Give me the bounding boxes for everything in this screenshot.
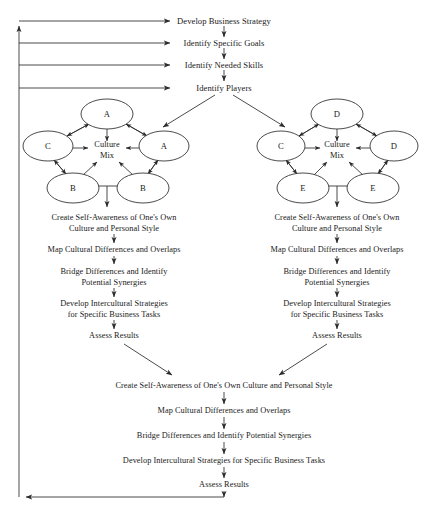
left-node-bottom-left-label: B (70, 184, 76, 193)
right-step-5: Assess Results (312, 332, 362, 340)
left-step-4-line-1: Develop Intercultural Strategies (60, 300, 168, 308)
left-step-3-line-2: Potential Synergies (81, 279, 146, 287)
left-culture-mix-label: Culture Mix (94, 140, 119, 161)
left-step-5: Assess Results (89, 332, 139, 340)
merge-connectors (124, 344, 327, 375)
players-split-connectors (163, 95, 285, 127)
merged-step-3: Bridge Differences and Identify Potentia… (137, 432, 311, 440)
right-step-4-line-2: for Specific Business Tasks (291, 311, 384, 319)
right-step-3-line-1: Bridge Differences and Identify (283, 268, 390, 276)
step-develop-business-strategy: Develop Business Strategy (177, 17, 271, 26)
left-node-right-label: A (161, 142, 167, 151)
merged-step-4: Develop Intercultural Strategies for Spe… (123, 457, 325, 465)
left-step-4-line-2: for Specific Business Tasks (68, 311, 161, 319)
left-step-1-line-2: Culture and Personal Style (69, 225, 159, 233)
merged-step-2: Map Cultural Differences and Overlaps (157, 407, 290, 415)
connector-layer (0, 0, 431, 518)
right-step-4-line-1: Develop Intercultural Strategies (283, 300, 391, 308)
right-node-bottom-left-label: E (300, 184, 305, 193)
step-identify-needed-skills: Identify Needed Skills (185, 61, 263, 70)
right-culture-mix-label: Culture Mix (324, 140, 349, 161)
right-step-1-line-1: Create Self-Awareness of One's Own (274, 214, 399, 222)
step-identify-specific-goals: Identify Specific Goals (184, 39, 265, 48)
right-node-bottom-right-label: E (370, 184, 375, 193)
right-step-1-line-2: Culture and Personal Style (292, 225, 382, 233)
left-step-1-line-1: Create Self-Awareness of One's Own (51, 214, 176, 222)
right-step-2: Map Cultural Differences and Overlaps (270, 246, 403, 254)
feedback-loop-lines (19, 21, 224, 497)
left-node-bottom-right-label: B (140, 184, 146, 193)
right-node-top-label: D (334, 110, 340, 119)
left-step-2: Map Cultural Differences and Overlaps (47, 246, 180, 254)
step-identify-players: Identify Players (196, 84, 251, 93)
cluster-node-shapes (23, 99, 418, 203)
merged-step-5: Assess Results (199, 481, 249, 489)
left-node-top-label: A (104, 110, 110, 119)
right-node-left-label: C (278, 142, 284, 151)
merged-step-1: Create Self-Awareness of One's Own Cultu… (115, 382, 332, 390)
diagram-canvas: Develop Business Strategy Identify Speci… (0, 0, 431, 518)
left-step-3-line-1: Bridge Differences and Identify (60, 268, 167, 276)
right-step-3-line-2: Potential Synergies (304, 279, 369, 287)
right-node-right-label: D (391, 142, 397, 151)
left-node-left-label: C (45, 142, 51, 151)
